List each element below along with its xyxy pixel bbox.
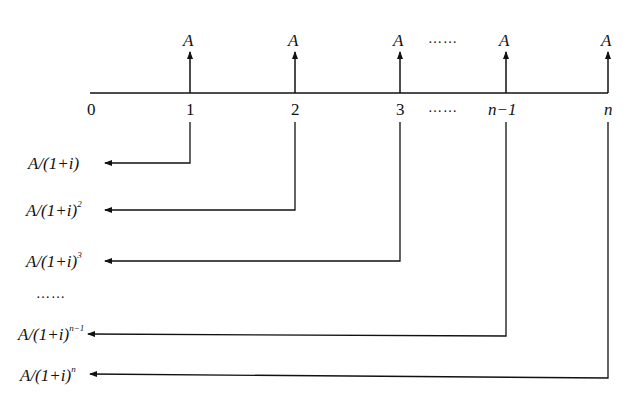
discount-path-n-1 (88, 122, 506, 336)
period-ellipsis: …… (428, 101, 458, 115)
pv-exponent: n−1 (69, 323, 84, 333)
payment-label-3: A (393, 32, 403, 49)
present-value-n: A/(1+i)n (20, 367, 76, 384)
payment-label-1: A (183, 32, 193, 49)
pv-exponent: 2 (77, 199, 82, 209)
pv-text: A/(1+i) (26, 201, 77, 220)
cash-flow-diagram-lines (0, 0, 633, 408)
present-value-ellipsis: …… (36, 287, 66, 301)
period-label-n-1: n−1 (488, 101, 516, 118)
pv-text: A/(1+i) (18, 325, 69, 344)
period-label-n: n (604, 101, 613, 118)
present-value-n-1: A/(1+i)n−1 (18, 326, 84, 343)
period-label-3: 3 (396, 101, 405, 118)
discount-path-1 (105, 122, 190, 163)
discount-path-2 (105, 122, 295, 210)
period-label-0: 0 (87, 101, 96, 118)
pv-text: A/(1+i) (28, 154, 79, 173)
present-value-1: A/(1+i) (28, 155, 79, 172)
pv-text: A/(1+i) (20, 366, 71, 385)
discount-path-n (90, 122, 608, 378)
discount-path-3 (105, 122, 400, 261)
payment-label-2: A (288, 32, 298, 49)
payment-ellipsis: …… (428, 32, 458, 46)
period-label-2: 2 (291, 101, 300, 118)
pv-exponent: n (71, 364, 76, 374)
present-value-2: A/(1+i)2 (26, 202, 82, 219)
payment-label-n-1: A (499, 32, 509, 49)
pv-exponent: 3 (77, 250, 82, 260)
payment-label-n: A (601, 32, 611, 49)
pv-text: A/(1+i) (26, 252, 77, 271)
period-label-1: 1 (186, 101, 195, 118)
present-value-3: A/(1+i)3 (26, 253, 82, 270)
